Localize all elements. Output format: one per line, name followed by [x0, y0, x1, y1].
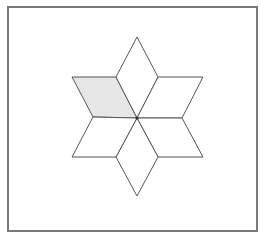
star-diagram [0, 0, 261, 240]
center-point [136, 117, 139, 120]
